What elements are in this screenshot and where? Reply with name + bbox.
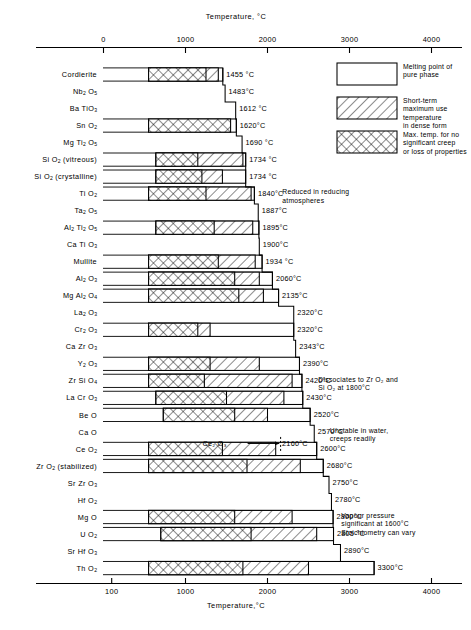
melt-temp-label-20: 2520°C bbox=[314, 410, 340, 419]
annotation-ce2o3-label: Ce₂ O₃ bbox=[203, 439, 227, 448]
melt-temp-label-11: 1934 °C bbox=[266, 257, 294, 266]
material-label-25: Hf O2 bbox=[78, 496, 97, 505]
melt-temp-label-28: 2890°C bbox=[344, 546, 370, 555]
melt-temp-label-12: 2060°C bbox=[276, 274, 302, 283]
melt-temp-label-2: 1612 °C bbox=[239, 104, 267, 113]
annotation-dissociates-zro2: Dissociates to Zr O₂ andSi O₂ at 1800°C bbox=[318, 376, 398, 393]
bars-group bbox=[103, 68, 374, 575]
material-label-7: Ti O2 bbox=[79, 189, 97, 198]
bottom-axis-tick-2000: 2000 bbox=[259, 587, 277, 596]
material-label-28: Sr Hf O3 bbox=[67, 547, 97, 556]
material-label-27: U O2 bbox=[80, 530, 97, 539]
melt-temp-label-22: 2600°C bbox=[320, 444, 346, 453]
melt-temp-label-15: 2320°C bbox=[297, 325, 323, 334]
bottom-axis-title: Temperature,°C bbox=[207, 601, 265, 610]
material-label-20: Be O bbox=[79, 411, 97, 420]
material-label-15: Cr2 O3 bbox=[75, 325, 98, 334]
material-label-5: Si O2 (vitreous) bbox=[42, 155, 97, 164]
legend-label-max-temp-no-creep: Max. temp. for nosignificant creepor los… bbox=[403, 131, 467, 157]
material-label-4: Mg Ti2 O5 bbox=[63, 138, 97, 147]
melt-temp-label-9: 1895°C bbox=[262, 223, 288, 232]
top-axis-title: Temperature, °C bbox=[206, 12, 267, 21]
material-label-22: Ce O2 bbox=[76, 445, 97, 454]
melt-temp-label-6: 1734 °C bbox=[249, 172, 277, 181]
top-axis-tick-0: 0 bbox=[101, 35, 105, 44]
material-label-19: La Cr O3 bbox=[66, 393, 97, 402]
bottom-axis bbox=[36, 578, 462, 584]
melt-temp-label-7: 1840°C bbox=[258, 189, 284, 198]
material-label-29: Th O2 bbox=[77, 564, 97, 573]
top-axis-tick-4000: 4000 bbox=[423, 35, 441, 44]
annotation-stoichiometry: Stoichiometry can vary bbox=[341, 529, 415, 537]
melt-temp-label-14: 2320°C bbox=[297, 308, 323, 317]
legend-label-short-term-max-use: Short-termmaximum usetemperaturein dense… bbox=[403, 97, 448, 131]
material-label-13: Mg Al2 O4 bbox=[63, 291, 97, 300]
material-label-1: Nb2 O5 bbox=[73, 87, 97, 96]
legend-box bbox=[337, 63, 397, 153]
bottom-axis-tick-3000: 3000 bbox=[341, 587, 359, 596]
material-label-6: Si O2 (crystalline) bbox=[34, 172, 97, 181]
annotation-reduced-in-reducing: Reduced in reducingatmospheres bbox=[282, 188, 349, 205]
material-label-16: Ca Zr O3 bbox=[66, 342, 97, 351]
material-label-21: Ca O bbox=[79, 428, 97, 437]
melt-temp-label-1: 1483°C bbox=[229, 87, 255, 96]
material-label-14: La2 O3 bbox=[74, 308, 97, 317]
material-label-0: Cordierite bbox=[62, 70, 97, 79]
material-label-24: Sr Zr O3 bbox=[68, 479, 97, 488]
material-label-23: Zr O2 (stabilized) bbox=[36, 462, 97, 471]
melt-temp-label-29: 3300°C bbox=[378, 563, 404, 572]
material-label-9: Al2 Ti2 O5 bbox=[64, 223, 97, 232]
melt-temp-label-25: 2780°C bbox=[335, 495, 361, 504]
melt-temp-label-23: 2680°C bbox=[327, 461, 353, 470]
melt-temp-label-4: 1690 °C bbox=[246, 138, 274, 147]
melt-temp-label-19: 2430°C bbox=[306, 393, 332, 402]
top-axis-tick-1000: 1000 bbox=[177, 35, 195, 44]
material-label-2: Ba TiO3 bbox=[70, 104, 97, 113]
material-label-18: Zr Si O4 bbox=[69, 376, 97, 385]
melt-temp-label-16: 2343°C bbox=[299, 342, 325, 351]
top-axis-tick-3000: 3000 bbox=[341, 35, 359, 44]
bottom-axis-tick-1000: 1000 bbox=[177, 587, 195, 596]
melt-temp-label-3: 1620°C bbox=[240, 121, 266, 130]
melt-temp-label-24: 2750°C bbox=[333, 478, 359, 487]
bottom-axis-tick-100: 100 bbox=[105, 587, 118, 596]
annotation-vapour-pressure: Vapour pressuresignificant at 1600°C bbox=[341, 512, 409, 529]
top-axis bbox=[36, 48, 462, 54]
melt-temp-label-0: 1455 °C bbox=[226, 70, 254, 79]
melt-temp-label-10: 1900°C bbox=[263, 240, 289, 249]
legend-label-melting-point: Melting point ofpure phase bbox=[403, 63, 452, 80]
annotation-ce2o3-value: 2160°C bbox=[282, 439, 308, 448]
material-label-8: Ta2 O5 bbox=[74, 206, 97, 215]
top-axis-tick-2000: 2000 bbox=[259, 35, 277, 44]
melt-temp-label-17: 2390°C bbox=[303, 359, 329, 368]
annotation-unstable-in-water: Unstable in water,creeps readily bbox=[330, 427, 389, 444]
material-label-12: Al2 O3 bbox=[76, 274, 97, 283]
melt-temp-label-13: 2135°C bbox=[282, 291, 308, 300]
material-label-11: Mullite bbox=[73, 257, 97, 266]
melt-temp-label-8: 1887°C bbox=[262, 206, 288, 215]
bottom-axis-tick-4000: 4000 bbox=[423, 587, 441, 596]
material-label-26: Mg O bbox=[78, 513, 97, 522]
material-label-10: Ca Ti O3 bbox=[67, 240, 97, 249]
material-label-17: Y2 O3 bbox=[78, 359, 97, 368]
melt-temp-label-5: 1734 °C bbox=[249, 155, 277, 164]
material-label-3: Sn O2 bbox=[76, 121, 97, 130]
